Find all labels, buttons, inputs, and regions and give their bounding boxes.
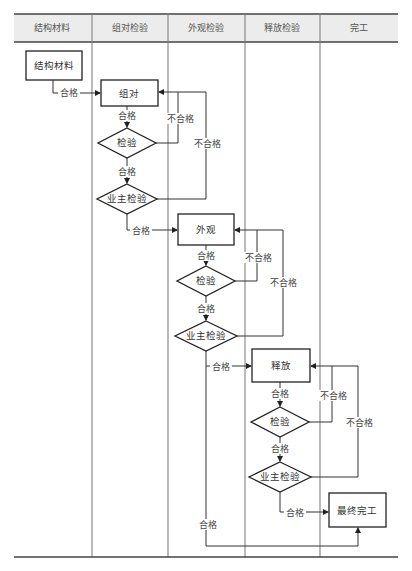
edge-label-fail: 不合格: [194, 138, 221, 149]
edge-label-pass: 合格: [132, 225, 150, 236]
edge-label-pass: 合格: [286, 507, 304, 518]
lane-header-material: 结构材料: [34, 22, 70, 33]
edge-label-pass: 合格: [271, 443, 289, 454]
edge-label-pass: 合格: [199, 519, 217, 530]
edge-labels: 合格 合格 合格 不合格 不合格 合格 合格 合格 不合格 不合格 合格 合格 …: [58, 87, 373, 530]
edge-label-fail: 不合格: [270, 277, 297, 288]
swimlane-flowchart: 结构材料 组对检验 外观检验 释放检验 完工: [0, 0, 412, 571]
node-material-label: 结构材料: [34, 60, 74, 71]
lane-header: 结构材料 组对检验 外观检验 释放检验 完工: [14, 14, 398, 42]
lane-header-appearance: 外观检验: [188, 22, 224, 33]
node-release-label: 释放: [271, 360, 291, 371]
node-assembly-owner-label: 业主检验: [107, 193, 147, 204]
edge-label-pass: 合格: [118, 110, 136, 121]
node-release-check-label: 检验: [270, 416, 290, 427]
edge-label-pass: 合格: [197, 303, 215, 314]
edge-label-pass: 合格: [271, 388, 289, 399]
edge-label-pass: 合格: [197, 250, 215, 261]
node-assembly-check-label: 检验: [117, 137, 137, 148]
edge-label-fail: 不合格: [320, 390, 347, 401]
lane-header-assembly: 组对检验: [112, 22, 148, 33]
edge-label-pass: 合格: [118, 166, 136, 177]
edge-label-fail: 不合格: [346, 417, 373, 428]
edge-label-fail: 不合格: [167, 113, 194, 124]
lane-header-completion: 完工: [350, 22, 368, 33]
node-appearance-owner-label: 业主检验: [186, 330, 226, 341]
node-final-label: 最终完工: [337, 505, 377, 516]
node-appearance-check-label: 检验: [196, 275, 216, 286]
edge-label-fail: 不合格: [245, 252, 272, 263]
edge-label-pass: 合格: [212, 361, 230, 372]
edge-label-pass: 合格: [60, 87, 78, 98]
node-assembly-label: 组对: [119, 88, 139, 99]
node-release-owner-label: 业主检验: [260, 471, 300, 482]
lane-header-release: 释放检验: [264, 22, 300, 33]
node-appearance-label: 外观: [196, 224, 216, 235]
